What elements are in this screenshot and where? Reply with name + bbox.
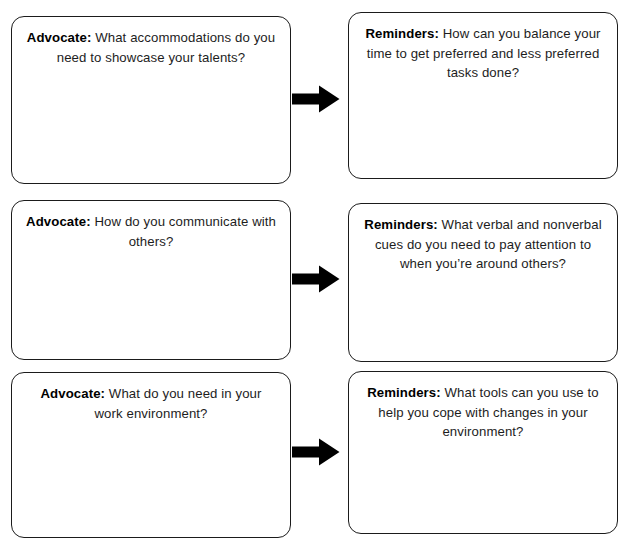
reminders-card[interactable]: Reminders: How can you balance your time… [348, 12, 618, 179]
right-arrow-icon [292, 85, 340, 113]
reminders-card-text: Reminders: How can you balance your time… [349, 13, 617, 83]
advocate-card-text: Advocate: What accommodations do you nee… [12, 17, 290, 67]
advocate-reminders-worksheet: Advocate: What accommodations do you nee… [0, 0, 640, 547]
right-arrow-icon [292, 438, 340, 466]
advocate-card-label: Advocate: [26, 214, 91, 229]
worksheet-row: Advocate: How do you communicate with ot… [0, 190, 640, 370]
advocate-card[interactable]: Advocate: What do you need in your work … [11, 372, 291, 538]
advocate-card-label: Advocate: [40, 386, 105, 401]
advocate-card[interactable]: Advocate: How do you communicate with ot… [11, 200, 291, 360]
advocate-card[interactable]: Advocate: What accommodations do you nee… [11, 16, 291, 184]
reminders-card[interactable]: Reminders: What verbal and nonverbal cue… [348, 203, 618, 362]
advocate-card-text: Advocate: What do you need in your work … [12, 373, 290, 423]
worksheet-row: Advocate: What do you need in your work … [0, 370, 640, 547]
advocate-card-question: What do you need in your work environmen… [94, 386, 261, 421]
reminders-card-label: Reminders: [367, 385, 441, 400]
advocate-card-label: Advocate: [27, 30, 92, 45]
advocate-card-text: Advocate: How do you communicate with ot… [12, 201, 290, 251]
reminders-card-text: Reminders: What verbal and nonverbal cue… [349, 204, 617, 274]
worksheet-row: Advocate: What accommodations do you nee… [0, 0, 640, 190]
right-arrow-icon [292, 265, 340, 293]
reminders-card-label: Reminders: [364, 217, 438, 232]
reminders-card-text: Reminders: What tools can you use to hel… [349, 372, 617, 442]
reminders-card-label: Reminders: [365, 26, 439, 41]
reminders-card[interactable]: Reminders: What tools can you use to hel… [348, 371, 618, 534]
advocate-card-question: How do you communicate with others? [91, 214, 276, 249]
